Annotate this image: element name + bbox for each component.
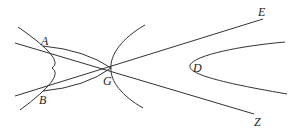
label-e: E [257, 5, 266, 19]
line-b-g-e [15, 19, 263, 96]
label-d: D [192, 61, 202, 75]
middle-curve [111, 25, 145, 108]
label-g: G [103, 74, 112, 88]
label-z: Z [254, 115, 261, 129]
label-a: A [40, 34, 49, 48]
label-b: B [39, 93, 47, 107]
right-curve [190, 42, 287, 94]
left-curve [18, 27, 55, 110]
line-a-g-z [15, 43, 254, 114]
geometry-diagram: A B G D E Z [0, 0, 302, 132]
